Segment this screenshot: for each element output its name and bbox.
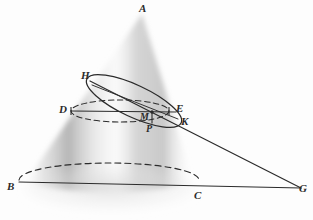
label-apex-a: A — [139, 3, 146, 14]
point-m-marker — [150, 110, 153, 113]
label-far-right-g: G — [299, 183, 307, 194]
label-foot-p: P — [146, 124, 152, 134]
label-section-lower-right-k: K — [181, 116, 188, 127]
cone-diagram-canvas — [0, 0, 313, 220]
label-circle-left-d: D — [59, 104, 67, 115]
base-shadow-glow — [24, 168, 196, 212]
cone-diagram-figure: A B C G H D E K M P — [0, 0, 313, 220]
label-section-upper-left-h: H — [81, 70, 90, 81]
label-base-left-b: B — [7, 181, 14, 192]
label-base-right-c: C — [194, 190, 201, 201]
label-circle-right-e: E — [176, 103, 183, 114]
label-center-m: M — [140, 112, 149, 122]
